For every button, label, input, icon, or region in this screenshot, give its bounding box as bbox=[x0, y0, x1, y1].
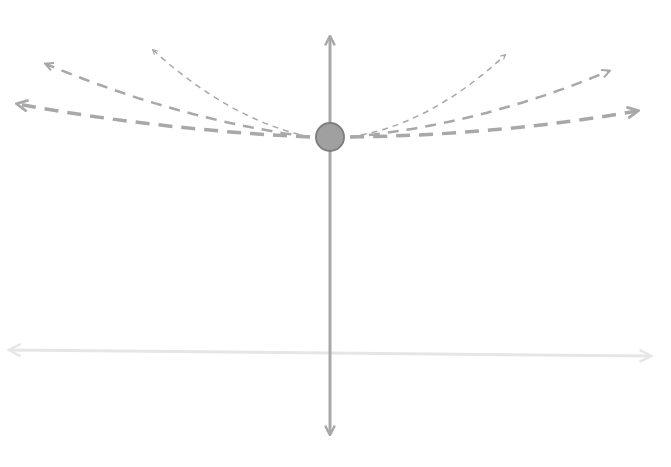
dashed-vector-left-mid bbox=[46, 64, 310, 137]
dashed-vector-right-high bbox=[350, 55, 505, 137]
vector-diagram bbox=[0, 0, 671, 467]
dashed-vector-right-mid bbox=[350, 71, 609, 137]
dashed-vector-left-low bbox=[18, 104, 310, 137]
origin-node bbox=[316, 123, 344, 151]
